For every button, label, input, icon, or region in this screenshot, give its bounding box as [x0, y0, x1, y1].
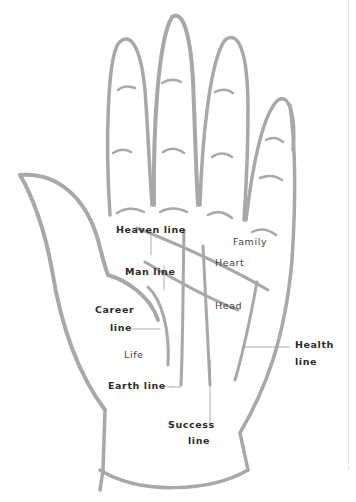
label-life: Life	[124, 349, 144, 361]
label-career-line-1: Career	[95, 304, 134, 316]
earth-line	[181, 230, 184, 385]
life-line	[148, 287, 168, 365]
index-finger	[108, 39, 152, 215]
label-career-line-2: line	[110, 322, 132, 334]
thumb-outline	[20, 175, 108, 275]
label-success-line-2: line	[188, 435, 210, 447]
label-head: Head	[215, 300, 242, 312]
label-success-line-1: Success	[168, 419, 215, 431]
thumb-inner	[20, 175, 105, 410]
ring-finger	[200, 38, 248, 220]
health-line	[235, 282, 257, 380]
label-health-line-1: Health	[295, 339, 334, 351]
wrist-bottom	[100, 470, 248, 488]
label-earth-line: Earth line	[108, 380, 166, 392]
success-line	[203, 246, 210, 385]
middle-finger	[154, 16, 198, 205]
label-man-line: Man line	[125, 266, 175, 278]
label-health-line-2: line	[295, 356, 317, 368]
pinky-finger	[246, 99, 294, 220]
label-heaven-line: Heaven line	[116, 224, 186, 236]
wrist-left	[100, 410, 105, 490]
label-family: Family	[233, 236, 267, 248]
label-heart: Heart	[215, 257, 244, 269]
